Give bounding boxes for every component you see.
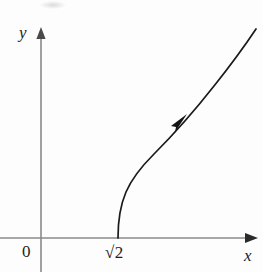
function-curve [118,29,256,238]
x-axis-label: x [244,247,252,264]
graph-figure: y x 0 √2 [0,0,263,272]
y-axis-arrowhead [36,27,45,39]
y-axis-label: y [19,24,27,41]
origin-label: 0 [22,243,31,260]
x-intercept-label: √2 [105,244,124,261]
curve-direction-arrowhead [171,114,187,132]
plot-canvas [0,0,263,272]
x-axis-arrowhead [245,233,258,243]
